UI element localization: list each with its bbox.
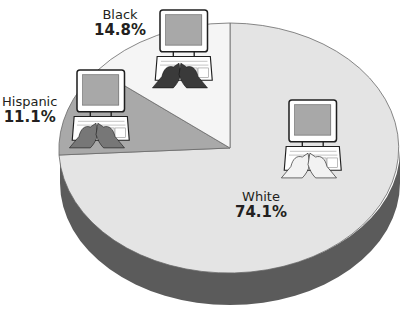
pie-chart [0, 0, 407, 314]
laptop-typing-icon [281, 100, 341, 178]
label-hispanic-name: Hispanic [2, 95, 57, 109]
label-hispanic-pct: 11.1% [2, 109, 57, 126]
laptop-typing-icon [152, 10, 212, 88]
label-white-name: White [235, 190, 287, 204]
label-white-pct: 74.1% [235, 204, 287, 221]
label-black-name: Black [94, 8, 146, 22]
laptop-typing-icon [69, 70, 129, 148]
label-black: Black 14.8% [94, 8, 146, 39]
label-black-pct: 14.8% [94, 22, 146, 39]
label-hispanic: Hispanic 11.1% [2, 95, 57, 126]
label-white: White 74.1% [235, 190, 287, 221]
